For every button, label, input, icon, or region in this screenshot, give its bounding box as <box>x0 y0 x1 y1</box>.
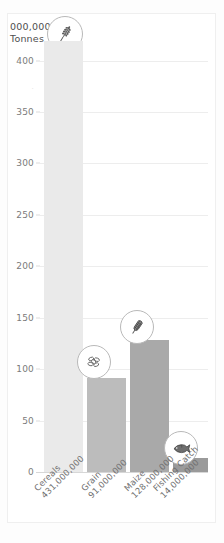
plot-area <box>0 0 224 472</box>
corn-cob-icon <box>120 310 154 344</box>
bar-chart: 000,000 Tonnes <box>0 0 224 543</box>
bar-cereals[interactable] <box>44 41 83 472</box>
grain-seeds-icon <box>77 345 111 379</box>
